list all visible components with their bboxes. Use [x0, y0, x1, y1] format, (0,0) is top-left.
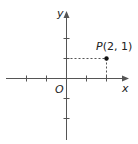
y-axis-arrow-icon	[64, 11, 70, 18]
x-axis-arrow-icon	[122, 76, 129, 82]
coordinate-diagram: y x O P(2, 1)	[0, 0, 138, 144]
x-axis-label: x	[121, 82, 129, 95]
point-p	[104, 56, 108, 60]
origin-label: O	[55, 83, 64, 96]
point-label: P(2, 1)	[96, 40, 132, 53]
y-axis-label: y	[56, 7, 64, 20]
